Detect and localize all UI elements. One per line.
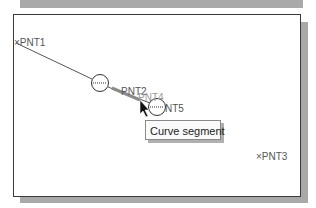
tooltip-text: Curve segment bbox=[150, 125, 225, 137]
point-label-pnt5: NT5 bbox=[165, 104, 184, 114]
curve-line[interactable] bbox=[16, 43, 92, 79]
point-label-pnt3: ×PNT3 bbox=[256, 152, 287, 162]
tooltip: Curve segment bbox=[145, 120, 221, 140]
point-label-pnt1: ×PNT1 bbox=[14, 38, 45, 48]
point-label-pnt4: PNT4 bbox=[138, 93, 164, 103]
sketch-canvas[interactable] bbox=[0, 0, 316, 208]
control-circle-icon[interactable] bbox=[92, 75, 109, 92]
